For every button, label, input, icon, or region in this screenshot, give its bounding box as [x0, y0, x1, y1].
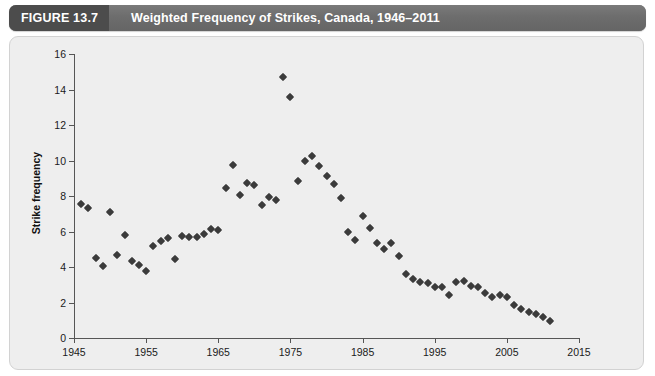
x-axis-tick	[507, 338, 508, 343]
x-axis-tick-label: 2005	[495, 347, 518, 358]
data-point	[322, 172, 330, 180]
y-axis-title: Strike frequency	[30, 138, 42, 248]
data-point	[113, 251, 121, 259]
data-point	[301, 157, 309, 165]
y-axis-tick	[69, 303, 74, 304]
plot-area: Strike frequency 02468101214161945195519…	[10, 37, 644, 370]
x-axis-tick-label: 1985	[351, 347, 374, 358]
data-point	[214, 225, 222, 233]
figure-title: Weighted Frequency of Strikes, Canada, 1…	[131, 5, 440, 31]
data-point	[221, 184, 229, 192]
data-point	[394, 252, 402, 260]
data-point	[293, 177, 301, 185]
figure-number-box: FIGURE 13.7	[9, 5, 109, 31]
data-point	[171, 255, 179, 263]
data-point	[91, 254, 99, 262]
data-point	[84, 203, 92, 211]
x-axis-tick-label: 1995	[423, 347, 446, 358]
y-axis-tick	[69, 267, 74, 268]
x-axis-tick-label: 2015	[567, 347, 590, 358]
data-point	[236, 191, 244, 199]
x-axis-tick-label: 1945	[62, 347, 85, 358]
data-point	[344, 227, 352, 235]
x-axis-tick-label: 1975	[279, 347, 302, 358]
x-axis-tick	[146, 338, 147, 343]
data-point	[142, 267, 150, 275]
data-point	[438, 282, 446, 290]
data-point	[286, 93, 294, 101]
data-point	[308, 152, 316, 160]
x-axis-tick-label: 1955	[134, 347, 157, 358]
x-axis-tick-label: 1965	[207, 347, 230, 358]
data-point	[524, 308, 532, 316]
x-axis-tick	[290, 338, 291, 343]
data-point	[257, 201, 265, 209]
figure-header: FIGURE 13.7 Weighted Frequency of Strike…	[9, 5, 646, 31]
data-point	[228, 161, 236, 169]
y-axis-tick-label: 4	[48, 262, 66, 273]
y-axis-line	[74, 54, 75, 339]
x-axis-tick	[579, 338, 580, 343]
y-axis-tick	[69, 196, 74, 197]
data-point	[366, 224, 374, 232]
y-axis-tick	[69, 232, 74, 233]
data-point	[387, 239, 395, 247]
data-point	[99, 262, 107, 270]
y-axis-tick-label: 16	[48, 49, 66, 60]
data-point	[315, 162, 323, 170]
data-point	[546, 317, 554, 325]
x-axis-tick	[435, 338, 436, 343]
y-axis-tick-label: 12	[48, 120, 66, 131]
x-axis-tick	[218, 338, 219, 343]
y-axis-tick	[69, 125, 74, 126]
y-axis-tick-label: 0	[48, 333, 66, 344]
figure-container: FIGURE 13.7 Weighted Frequency of Strike…	[0, 0, 655, 376]
data-point	[358, 212, 366, 220]
y-axis-tick-label: 10	[48, 156, 66, 167]
y-axis-tick-label: 14	[48, 85, 66, 96]
data-point	[459, 277, 467, 285]
data-point	[149, 241, 157, 249]
data-point	[120, 231, 128, 239]
y-axis-tick	[69, 161, 74, 162]
data-point	[106, 208, 114, 216]
figure-number-label: FIGURE 13.7	[21, 11, 98, 25]
data-point	[380, 245, 388, 253]
data-point	[337, 194, 345, 202]
data-point	[373, 239, 381, 247]
x-axis-line	[74, 338, 579, 339]
data-point	[503, 293, 511, 301]
data-point	[452, 278, 460, 286]
x-axis-tick	[74, 338, 75, 343]
y-axis-tick	[69, 54, 74, 55]
y-axis-tick-label: 2	[48, 298, 66, 309]
y-axis-tick-label: 8	[48, 191, 66, 202]
data-point	[135, 261, 143, 269]
y-axis-tick	[69, 90, 74, 91]
data-point	[250, 181, 258, 189]
chart-panel: Strike frequency 02468101214161945195519…	[9, 36, 644, 370]
y-axis-tick-label: 6	[48, 227, 66, 238]
data-point	[279, 73, 287, 81]
data-point	[445, 291, 453, 299]
x-axis-tick	[363, 338, 364, 343]
data-point	[329, 179, 337, 187]
data-point	[474, 283, 482, 291]
data-point	[351, 236, 359, 244]
